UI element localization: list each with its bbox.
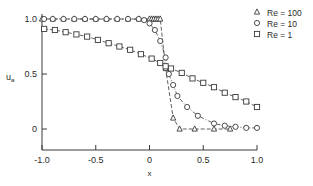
circle-marker bbox=[42, 16, 47, 21]
circle-marker bbox=[233, 124, 238, 129]
legend: Re = 100Re = 10Re = 1 bbox=[254, 8, 302, 40]
square-marker bbox=[74, 32, 79, 37]
plot-area bbox=[39, 16, 259, 131]
circle-marker bbox=[61, 16, 66, 21]
circle-marker bbox=[142, 18, 147, 23]
triangle-marker bbox=[177, 126, 182, 131]
legend-label: Re = 1 bbox=[267, 30, 293, 40]
circle-marker bbox=[163, 55, 168, 60]
circle-marker bbox=[185, 104, 190, 109]
square-marker bbox=[163, 64, 168, 69]
square-marker bbox=[244, 99, 249, 104]
square-marker bbox=[211, 85, 216, 90]
triangle-marker bbox=[211, 126, 216, 131]
x-tick-label: 1.0 bbox=[251, 155, 264, 165]
circle-marker bbox=[152, 27, 157, 32]
square-marker bbox=[149, 56, 154, 61]
square-marker bbox=[179, 70, 184, 75]
y-tick-label: 1.0 bbox=[24, 14, 37, 24]
square-marker bbox=[85, 34, 90, 39]
series-square bbox=[42, 26, 260, 109]
square-marker bbox=[42, 26, 47, 31]
x-tick-label: 0.5 bbox=[197, 155, 210, 165]
circle-marker bbox=[171, 82, 176, 87]
y-tick-label: 0.5 bbox=[24, 69, 37, 79]
series-line bbox=[42, 19, 230, 129]
circle-marker bbox=[195, 113, 200, 118]
chart: -1.0-0.500.51.000.51.0xua Re = 100Re = 1… bbox=[0, 0, 313, 186]
circle-marker bbox=[222, 123, 227, 128]
circle-marker bbox=[50, 16, 55, 21]
square-marker bbox=[63, 30, 68, 35]
triangle-marker bbox=[192, 126, 197, 131]
x-axis-label: x bbox=[148, 169, 152, 178]
x-tick-label: 0 bbox=[147, 155, 152, 165]
y-tick-label: 0 bbox=[32, 124, 37, 134]
circle-marker bbox=[254, 125, 259, 130]
circle-marker bbox=[211, 121, 216, 126]
square-marker bbox=[52, 27, 57, 32]
legend-label: Re = 100 bbox=[267, 8, 302, 18]
circle-marker bbox=[254, 20, 259, 25]
circle-marker bbox=[82, 16, 87, 21]
axes: -1.0-0.500.51.000.51.0xua bbox=[6, 14, 263, 178]
square-marker bbox=[117, 44, 122, 49]
circle-marker bbox=[158, 38, 163, 43]
square-marker bbox=[158, 60, 163, 65]
square-marker bbox=[222, 90, 227, 95]
square-marker bbox=[95, 37, 100, 42]
y-axis-label: ua bbox=[6, 72, 15, 83]
circle-marker bbox=[72, 16, 77, 21]
square-marker bbox=[254, 31, 259, 36]
square-marker bbox=[138, 52, 143, 57]
legend-label: Re = 10 bbox=[267, 19, 297, 29]
square-marker bbox=[190, 76, 195, 81]
circle-marker bbox=[125, 16, 130, 21]
circle-marker bbox=[175, 93, 180, 98]
circle-marker bbox=[166, 71, 171, 76]
legend-item: Re = 10 bbox=[254, 19, 297, 29]
circle-marker bbox=[104, 16, 109, 21]
legend-item: Re = 100 bbox=[254, 8, 302, 18]
circle-marker bbox=[147, 21, 152, 26]
square-marker bbox=[168, 66, 173, 71]
triangle-marker bbox=[171, 115, 176, 120]
circle-marker bbox=[93, 16, 98, 21]
circle-marker bbox=[115, 16, 120, 21]
x-tick-label: -1.0 bbox=[34, 155, 50, 165]
square-marker bbox=[254, 104, 259, 109]
circle-marker bbox=[136, 16, 141, 21]
square-marker bbox=[106, 41, 111, 46]
triangle-marker bbox=[254, 9, 259, 14]
circle-marker bbox=[244, 125, 249, 130]
square-marker bbox=[128, 47, 133, 52]
square-marker bbox=[201, 80, 206, 85]
square-marker bbox=[233, 95, 238, 100]
legend-item: Re = 1 bbox=[254, 30, 292, 40]
x-tick-label: -0.5 bbox=[88, 155, 104, 165]
